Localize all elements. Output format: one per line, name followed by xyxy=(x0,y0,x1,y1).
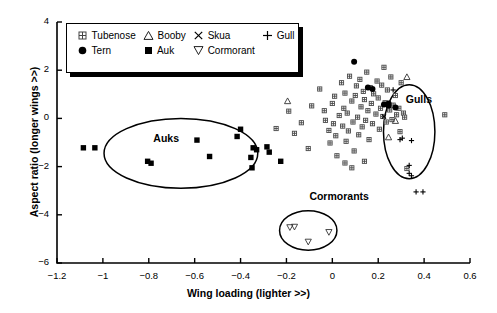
crossed-square-marker xyxy=(342,106,346,110)
legend-item-gull[interactable]: Gull xyxy=(258,29,298,44)
crossed-square-marker xyxy=(350,99,354,103)
x-tick-label: 0.6 xyxy=(450,270,490,281)
x-tick-label: −1.2 xyxy=(37,270,77,281)
crossed-square-marker xyxy=(322,109,326,113)
crossed-square-marker xyxy=(401,111,405,115)
crossed-square-marker xyxy=(350,166,354,170)
crossed-square-marker xyxy=(323,118,327,122)
crossed-square-marker xyxy=(403,115,407,119)
x-tick-label: 0.2 xyxy=(358,270,398,281)
crossed-square-marker xyxy=(330,101,334,105)
crossed-square-marker xyxy=(352,149,356,153)
x-tick-label: 0 xyxy=(312,270,352,281)
crossed-square-marker xyxy=(361,89,365,93)
series-tubenose xyxy=(274,65,447,170)
legend-item-label: Cormorant xyxy=(208,45,255,56)
crossed-square-marker xyxy=(360,125,364,129)
filled-square-marker xyxy=(148,161,153,166)
open-triangle-down-marker xyxy=(291,224,297,230)
crossed-square-marker xyxy=(367,138,371,142)
cluster-label: Cormorants xyxy=(309,190,369,202)
crossed-square-marker xyxy=(394,113,398,117)
legend-item-cormorant[interactable]: Cormorant xyxy=(189,44,258,59)
y-tick-label: 0 xyxy=(21,111,49,122)
crossed-square-marker xyxy=(292,131,296,135)
filled-circle-marker xyxy=(369,86,375,92)
x-axis-label: Wing loading (lighter >>) xyxy=(0,287,497,299)
legend-item-label: Tubenose xyxy=(92,30,136,41)
legend-item-label: Skua xyxy=(208,30,231,41)
y-tick-label: −4 xyxy=(21,208,49,219)
crossed-square-marker xyxy=(384,120,388,124)
crossed-square-marker xyxy=(380,83,384,87)
crossed-square-marker xyxy=(378,106,382,110)
legend-spacer xyxy=(258,44,298,59)
crossed-square-marker xyxy=(343,91,347,95)
crossed-square-marker xyxy=(328,141,332,145)
crossed-square-marker xyxy=(333,94,337,98)
crossed-square-marker xyxy=(365,70,369,74)
plus-icon xyxy=(261,30,274,43)
filled-square-marker xyxy=(234,134,239,139)
legend-item-label: Tern xyxy=(92,45,111,56)
y-tick-label: 4 xyxy=(21,15,49,26)
open-triangle-up-marker xyxy=(284,98,290,104)
chart-figure: Wing loading (lighter >>) Aspect ratio (… xyxy=(0,0,497,313)
crossed-square-marker xyxy=(375,79,379,83)
filled-circle-icon xyxy=(76,45,89,58)
legend: Tubenose Booby Skua Gull Tern Auk Cormor… xyxy=(66,23,299,73)
legend-item-label: Gull xyxy=(277,30,295,41)
filled-square-marker xyxy=(278,159,283,164)
crossed-square-marker xyxy=(372,92,376,96)
crossed-square-marker xyxy=(376,96,380,100)
filled-circle-marker xyxy=(386,100,392,106)
legend-item-auk[interactable]: Auk xyxy=(139,44,189,59)
crossed-square-marker xyxy=(393,93,397,97)
filled-square-marker xyxy=(238,127,243,132)
crossed-square-marker xyxy=(355,115,359,119)
filled-square-marker xyxy=(81,145,86,150)
legend-item-label: Auk xyxy=(157,45,174,56)
crossed-square-marker xyxy=(345,111,349,115)
crossed-square-marker xyxy=(331,122,335,126)
crossed-square-marker xyxy=(341,124,345,128)
crossed-square-marker xyxy=(339,81,343,85)
series-cormorant xyxy=(287,224,332,245)
y-tick-label: 2 xyxy=(21,63,49,74)
filled-square-marker xyxy=(248,155,253,160)
filled-square-marker xyxy=(249,165,254,170)
cluster-label: Auks xyxy=(153,132,179,144)
open-triangle-down-icon xyxy=(192,45,205,58)
crossed-square-marker xyxy=(398,130,402,134)
filled-circle-marker xyxy=(392,105,398,111)
open-triangle-up-icon xyxy=(142,30,155,43)
x-tick-label: −0.6 xyxy=(175,270,215,281)
crossed-square-marker xyxy=(354,84,358,88)
crossed-square-marker xyxy=(299,121,303,125)
crossed-square-marker xyxy=(306,146,310,150)
crossed-square-marker xyxy=(310,104,314,108)
legend-item-booby[interactable]: Booby xyxy=(139,29,189,44)
filled-circle-marker xyxy=(351,59,357,65)
open-triangle-up-marker xyxy=(385,134,391,140)
crossed-square-marker xyxy=(344,139,348,143)
crossed-square-icon xyxy=(76,30,89,43)
crossed-square-marker xyxy=(357,133,361,137)
crossed-square-marker xyxy=(385,88,389,92)
x-tick-label: −1 xyxy=(83,270,123,281)
crossed-square-marker xyxy=(366,109,370,113)
legend-item-tubenose[interactable]: Tubenose xyxy=(73,29,139,44)
filled-square-marker xyxy=(264,144,269,149)
filled-square-marker xyxy=(207,154,212,159)
y-tick-label: −6 xyxy=(21,256,49,267)
crossed-square-marker xyxy=(346,129,350,133)
crossed-square-marker xyxy=(274,126,278,130)
plus-marker xyxy=(420,189,425,194)
x-tick-label: 0.4 xyxy=(404,270,444,281)
filled-square-marker xyxy=(254,147,259,152)
crossed-square-marker xyxy=(399,81,403,85)
times-icon xyxy=(192,30,205,43)
legend-item-skua[interactable]: Skua xyxy=(189,29,258,44)
cluster-ellipses xyxy=(104,85,435,251)
legend-item-tern[interactable]: Tern xyxy=(73,44,139,59)
